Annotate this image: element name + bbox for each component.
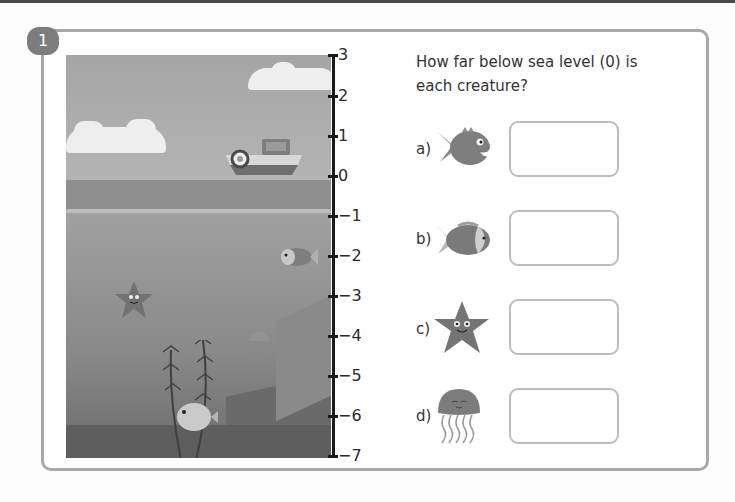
answer-box-d[interactable]: [509, 388, 619, 444]
pufferfish-icon: [174, 400, 218, 434]
jellyfish-icon: [434, 387, 484, 447]
starfish-icon: [114, 280, 154, 320]
tick-mark: [328, 175, 338, 178]
tick-mark: [328, 375, 338, 378]
answer-box-c[interactable]: [509, 299, 619, 355]
sea-surface: [66, 180, 331, 212]
cloud-icon: [271, 62, 296, 82]
item-label-b: b): [416, 230, 431, 248]
tick-mark: [328, 215, 338, 218]
tick-label: 3: [338, 46, 348, 64]
tick-label: −3: [338, 287, 362, 305]
tick-label: −5: [338, 367, 362, 385]
tick-label: 0: [338, 167, 348, 185]
tick-label: 2: [338, 87, 348, 105]
tick-mark: [328, 54, 338, 57]
clownfish-icon: [434, 218, 494, 262]
tick-mark: [328, 455, 338, 458]
tick-label: −7: [338, 447, 362, 465]
cloud-icon: [126, 119, 156, 141]
tick-label: −2: [338, 247, 362, 265]
tick-mark: [328, 95, 338, 98]
tick-mark: [328, 255, 338, 258]
item-label-c: c): [416, 320, 430, 338]
sea-scene-illustration: [66, 55, 331, 458]
tick-label: −1: [338, 207, 362, 225]
tick-mark: [328, 135, 338, 138]
boat-icon: [224, 135, 304, 177]
answer-box-b[interactable]: [509, 210, 619, 266]
tick-mark: [328, 335, 338, 338]
tick-mark: [328, 415, 338, 418]
tick-label: −4: [338, 327, 362, 345]
tick-mark: [328, 295, 338, 298]
jellyfish-icon: [244, 325, 274, 365]
cloud-icon: [74, 121, 104, 141]
seaweed-icon: [151, 340, 231, 458]
tick-label: 1: [338, 127, 348, 145]
answer-box-a[interactable]: [509, 121, 619, 177]
item-label-d: d): [416, 407, 431, 425]
starfish-icon: [432, 299, 492, 357]
tick-label: −6: [338, 407, 362, 425]
piranha-fish-icon: [436, 124, 496, 172]
fish-icon: [280, 246, 318, 268]
question-number-badge: 1: [27, 27, 59, 55]
top-border: [0, 0, 735, 3]
question-prompt: How far below sea level (0) is each crea…: [416, 50, 676, 98]
item-label-a: a): [416, 140, 431, 158]
